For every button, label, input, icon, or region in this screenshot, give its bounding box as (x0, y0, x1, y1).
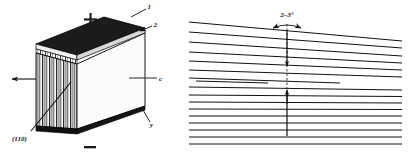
label-angle: 2–3° (279, 11, 294, 19)
figure-canvas: 1 2 c y (110) (0, 0, 414, 156)
label-plane-index: (110) (12, 135, 27, 143)
label-axis-c: c (159, 75, 162, 83)
scientific-figure: 1 2 c y (110) (0, 0, 414, 156)
label-edge-1: 1 (148, 3, 152, 11)
label-edge-2: 2 (153, 21, 158, 29)
polarity-minus-marker (84, 146, 96, 148)
horizontal-line (189, 109, 402, 110)
